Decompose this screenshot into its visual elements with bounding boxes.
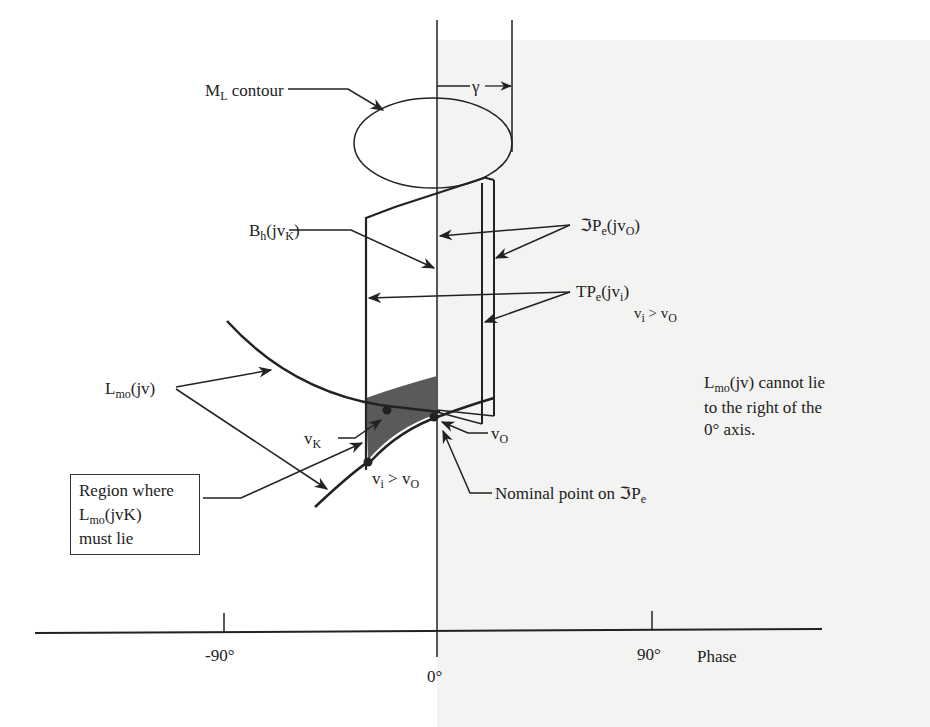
tpe-label: TPe(jvi) [576,283,629,303]
note-line-1: Lmo(jv) cannot lie [704,372,825,397]
phase-axis-label: Phase [697,648,737,665]
tpe-condition-label: vi > vO [634,306,677,324]
phase-axis [35,629,822,633]
gamma-label: γ [472,78,480,95]
region-line-2: Lmo(jvK) [79,506,142,526]
shaded-feasible-region [366,376,437,460]
vo-label: vO [491,425,508,445]
tpe-script-label: ℑPe(jvO) [580,217,640,237]
constraint-note: Lmo(jv) cannot lie to the right of the 0… [704,372,825,441]
tick-label-90: 90° [637,646,661,663]
bh-arrow [289,230,434,268]
nichols-diagram [0,0,930,727]
vk-label: vK [304,430,321,450]
lmo-label: Lmo(jv) [105,380,155,400]
vo-point [430,413,439,422]
ml-contour-arrow [288,89,383,110]
tick-label-minus-90: -90° [205,647,234,664]
vi-condition-label: vi > vO [372,470,419,490]
vk-point [383,406,392,415]
nominal-arrow [443,431,492,493]
region-annotation-box: Region where Lmo(jvK) must lie [70,474,200,555]
note-line-3: 0° axis. [704,419,825,441]
lmo-arrow-upper [176,370,271,387]
region-line-1: Region where [79,482,174,499]
region-line-3: must lie [79,530,133,547]
ml-contour-ellipse [354,98,512,188]
vi-point [364,458,373,467]
tpe-arrow-1 [369,292,570,298]
tick-label-0: 0° [427,668,442,685]
tpe-arrow-2 [485,292,570,322]
nominal-point-label: Nominal point on ℑPe [495,485,646,505]
ml-contour-label: ML contour [205,82,284,102]
note-line-2: to the right of the [704,397,825,419]
bh-label: Bh(jvK) [249,222,300,242]
region-arrow [203,443,362,498]
